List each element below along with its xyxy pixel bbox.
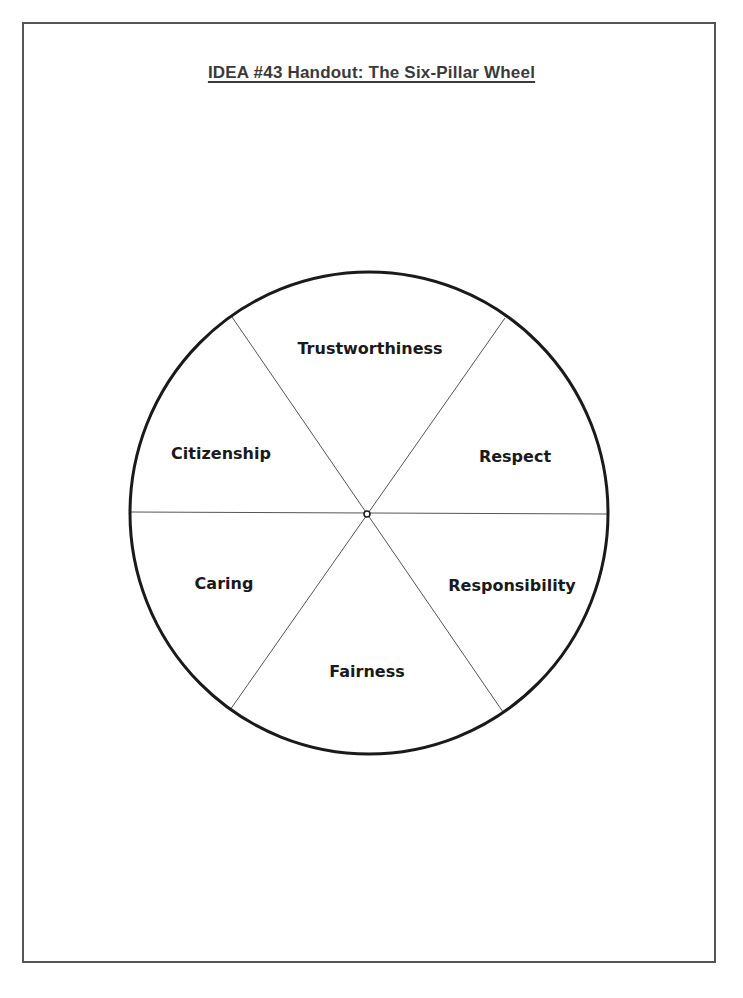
- wheel-center-hub: [364, 511, 370, 517]
- pillar-label-responsibility: Responsibility: [448, 576, 576, 595]
- pillar-label-trustworthiness: Trustworthiness: [297, 339, 442, 358]
- pillar-label-respect: Respect: [479, 447, 551, 466]
- six-pillar-wheel: Trustworthiness Respect Responsibility F…: [0, 0, 743, 998]
- pillar-label-caring: Caring: [195, 574, 254, 593]
- pillar-label-fairness: Fairness: [329, 662, 404, 681]
- pillar-label-citizenship: Citizenship: [171, 444, 271, 463]
